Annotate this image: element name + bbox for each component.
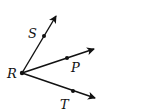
point-P xyxy=(65,56,69,60)
point-T xyxy=(71,89,75,93)
label-R: R xyxy=(6,66,17,81)
rays-diagram: S P T R xyxy=(0,0,146,112)
ray-RT: T xyxy=(22,73,95,112)
ray-RS: S xyxy=(22,16,56,73)
ray-RP: P xyxy=(22,49,94,75)
label-P: P xyxy=(70,60,80,75)
label-T: T xyxy=(60,97,70,112)
point-S xyxy=(42,34,46,38)
vertex-R xyxy=(20,71,24,75)
label-S: S xyxy=(28,26,37,41)
